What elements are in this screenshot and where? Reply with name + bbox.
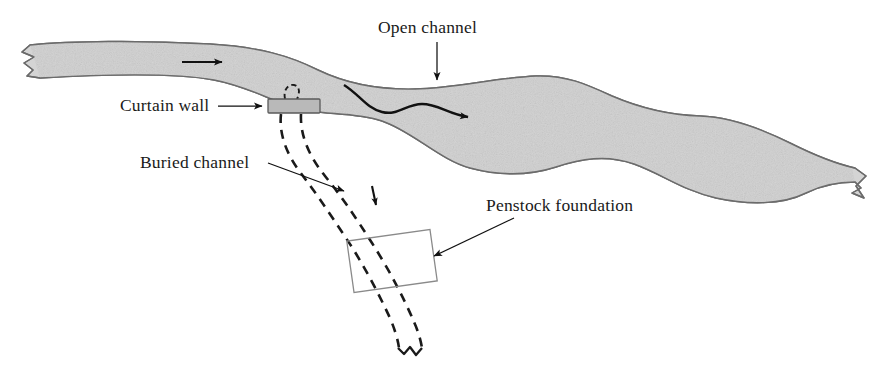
penstock-foundation-leader — [434, 218, 514, 256]
figure-canvas: Open channel Curtain wall Buried channel… — [0, 0, 891, 386]
label-curtain-wall: Curtain wall — [120, 95, 209, 115]
buried-channel-flow-arrow — [372, 186, 376, 205]
label-open-channel: Open channel — [378, 17, 477, 37]
river-texture — [0, 20, 891, 220]
diagram-svg: Open channel Curtain wall Buried channel… — [0, 0, 891, 386]
buried-channel-leader — [268, 163, 344, 191]
open-channel-river — [0, 20, 891, 220]
buried-channel — [281, 114, 422, 355]
label-buried-channel: Buried channel — [140, 152, 249, 172]
buried-channel-break-symbol — [398, 347, 422, 355]
label-penstock-foundation: Penstock foundation — [486, 195, 633, 215]
penstock-foundation — [347, 229, 437, 292]
